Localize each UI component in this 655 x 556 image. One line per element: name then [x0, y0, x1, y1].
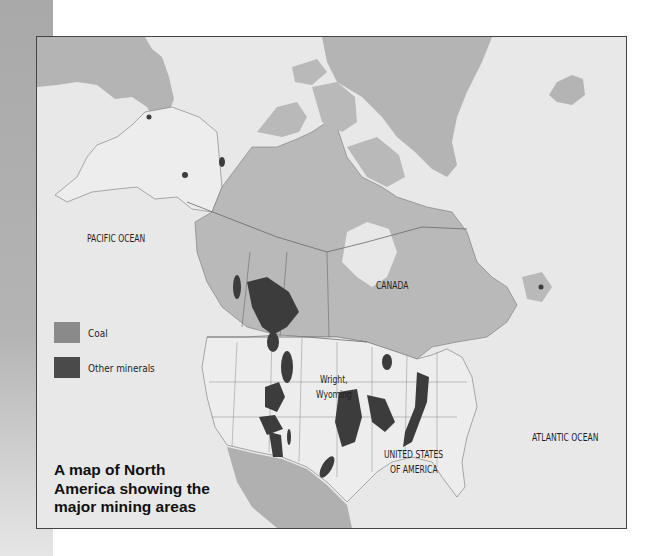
north-america-map — [37, 37, 626, 528]
legend-coal: Coal — [54, 322, 111, 343]
atlantic-ocean-label: ATLANTIC OCEAN — [532, 432, 598, 443]
coal-swatch — [54, 322, 80, 343]
usa-label-line2: OF AMERICA — [390, 464, 438, 475]
map-caption: A map of North America showing the major… — [54, 461, 210, 517]
legend-other-minerals: Other minerals — [54, 357, 167, 378]
usa-label-line1: UNITED STATES — [384, 449, 443, 460]
pacific-ocean-label: PACIFIC OCEAN — [87, 233, 145, 244]
wright-label-line1: Wright, — [320, 374, 348, 385]
canada-label: CANADA — [376, 280, 408, 291]
other-minerals-swatch — [54, 357, 80, 378]
map-frame: PACIFIC OCEAN ATLANTIC OCEAN CANADA UNIT… — [36, 36, 627, 529]
coal-label: Coal — [88, 327, 108, 339]
caption-line-2: America showing the — [54, 480, 210, 499]
wright-label-line2: Wyoming — [316, 389, 352, 400]
caption-line-3: major mining areas — [54, 498, 210, 517]
other-minerals-label: Other minerals — [88, 362, 155, 374]
caption-line-1: A map of North — [54, 461, 210, 480]
